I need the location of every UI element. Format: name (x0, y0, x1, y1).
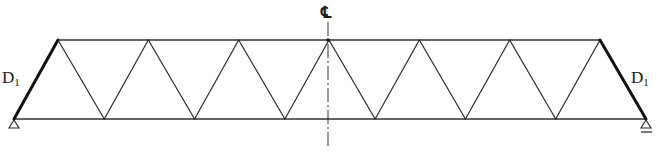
left-d1-label: D1 (2, 68, 20, 88)
centerline-symbol: ℄ (320, 4, 332, 21)
diagonal (148, 40, 194, 119)
truss-members (14, 38, 646, 119)
diagonal (465, 40, 509, 119)
member-labels: D1 D1 (2, 68, 649, 88)
left-pin-support-icon (9, 120, 19, 128)
diagonal (285, 40, 329, 119)
centerline: ℄ (320, 4, 332, 148)
right-d1-label: D1 (631, 68, 649, 88)
diagonal (104, 40, 148, 119)
truss-diagram: ℄ D1 D1 (0, 0, 660, 157)
diagonal (556, 40, 600, 119)
diagonal (239, 40, 285, 119)
diagonal (329, 40, 375, 119)
right-roller-support-icon (641, 120, 651, 128)
left-end-diagonal-d1 (14, 40, 58, 119)
supports (9, 120, 652, 132)
diagonal (58, 40, 104, 119)
diagonal (510, 40, 556, 119)
diagonal (375, 40, 419, 119)
diagonal (419, 40, 465, 119)
diagonal (195, 40, 239, 119)
